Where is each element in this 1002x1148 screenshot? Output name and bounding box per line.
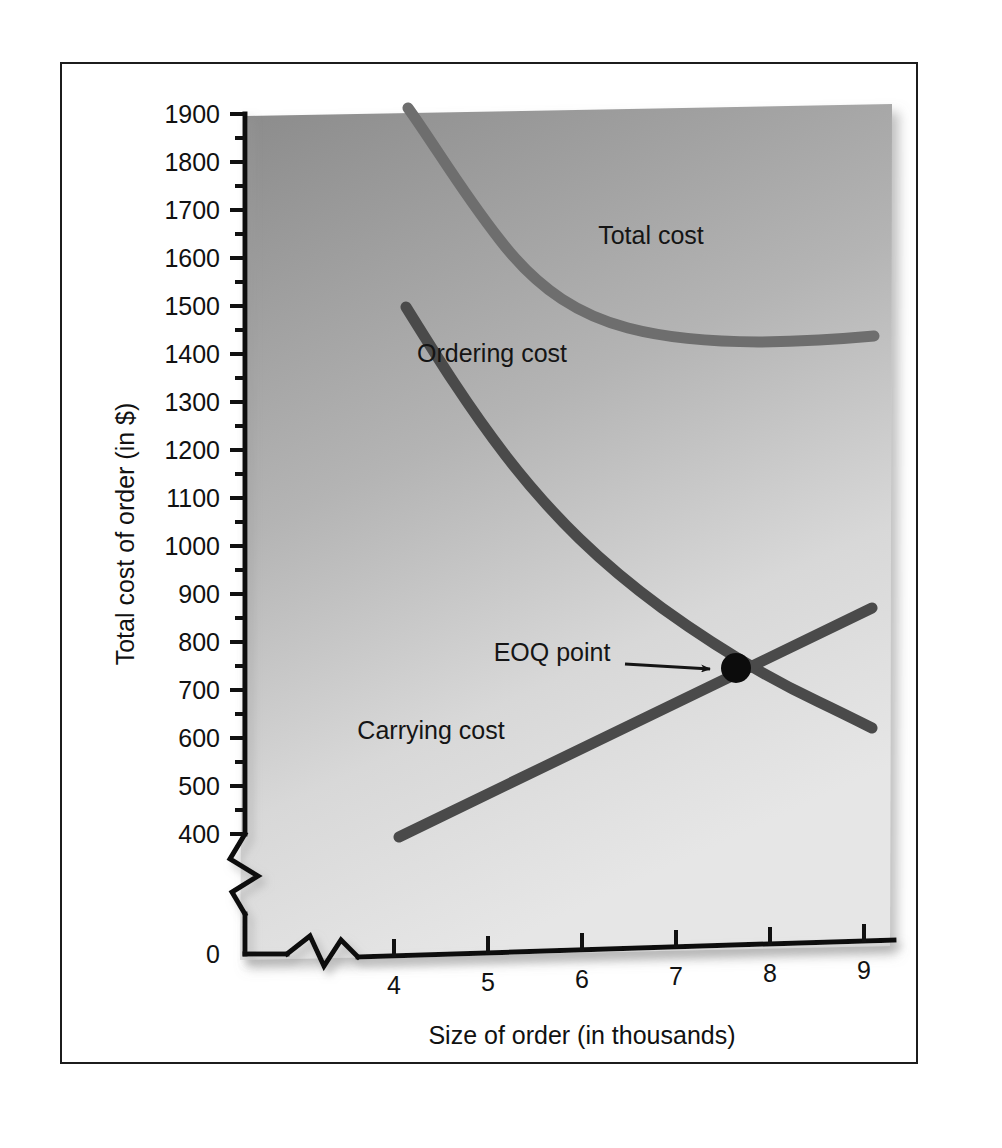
x-tick-label: 7 xyxy=(669,962,683,990)
y-tick-label: 500 xyxy=(178,772,220,800)
y-tick-label: 600 xyxy=(178,724,220,752)
x-tick-label: 4 xyxy=(387,971,401,999)
y-tick-label: 1600 xyxy=(164,244,220,272)
x-axis-title: Size of order (in thousands) xyxy=(428,1021,735,1049)
y-tick-label: 1300 xyxy=(164,388,220,416)
y-tick-label: 1400 xyxy=(164,340,220,368)
series-label-ordering-cost: Ordering cost xyxy=(417,339,567,367)
eoq-cost-chart: 1900 1800 1700 1600 1500 1400 1300 1200 … xyxy=(62,64,916,1062)
y-tick-label: 800 xyxy=(178,628,220,656)
y-tick-label-zero: 0 xyxy=(206,940,220,968)
y-tick-label: 1700 xyxy=(164,196,220,224)
y-tick-labels: 1900 1800 1700 1600 1500 1400 1300 1200 … xyxy=(164,100,220,968)
y-tick-label: 700 xyxy=(178,676,220,704)
y-tick-label: 1900 xyxy=(164,100,220,128)
y-tick-label: 400 xyxy=(178,820,220,848)
y-tick-label: 900 xyxy=(178,580,220,608)
x-tick-label: 5 xyxy=(481,968,495,996)
x-tick-labels: 4 5 6 7 8 9 xyxy=(387,956,871,999)
y-axis-title: Total cost of order (in $) xyxy=(111,403,139,666)
figure-frame: 1900 1800 1700 1600 1500 1400 1300 1200 … xyxy=(60,62,918,1064)
y-tick-label: 1500 xyxy=(164,292,220,320)
y-tick-label: 1200 xyxy=(164,436,220,464)
x-tick-label: 6 xyxy=(575,965,589,993)
series-label-total-cost: Total cost xyxy=(598,221,704,249)
figure-root: 1900 1800 1700 1600 1500 1400 1300 1200 … xyxy=(0,0,1002,1148)
y-tick-label: 1100 xyxy=(166,484,220,512)
x-tick-label: 8 xyxy=(763,959,777,987)
y-tick-label: 1800 xyxy=(164,148,220,176)
eoq-point-marker xyxy=(721,653,751,683)
eoq-point-label: EOQ point xyxy=(494,638,611,666)
x-tick-label: 9 xyxy=(857,956,871,984)
series-label-carrying-cost: Carrying cost xyxy=(357,716,504,744)
y-tick-label: 1000 xyxy=(164,532,220,560)
